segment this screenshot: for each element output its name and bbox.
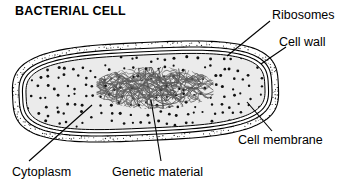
page-title: BACTERIAL CELL xyxy=(15,4,126,18)
label-genetic-material: Genetic material xyxy=(112,166,203,179)
bacterial-cell-diagram xyxy=(0,0,349,185)
cytoplasm-region xyxy=(26,53,265,129)
label-cell-membrane: Cell membrane xyxy=(238,134,323,147)
bacterial-cell-figure: BACTERIAL CELL Ribosomes Cell wall Cell … xyxy=(0,0,349,185)
label-ribosomes: Ribosomes xyxy=(272,9,335,22)
label-cell-wall: Cell wall xyxy=(279,36,326,49)
label-cytoplasm: Cytoplasm xyxy=(12,166,71,179)
